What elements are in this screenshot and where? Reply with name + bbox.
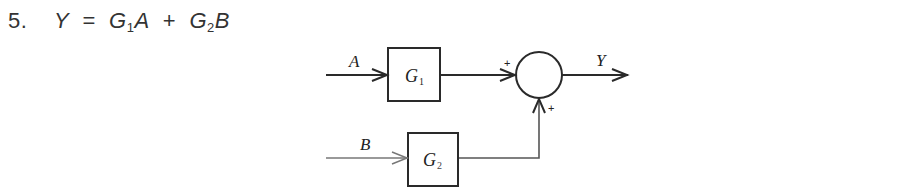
block-g1-sub: 1 — [419, 76, 424, 87]
label-y: Y — [596, 51, 607, 70]
sum-sign-top: + — [504, 57, 510, 69]
block-g2-sub: 2 — [437, 160, 442, 171]
block-diagram: A B Y G 1 G 2 + + — [0, 0, 912, 192]
block-g1-label: G — [405, 66, 418, 86]
label-b: B — [360, 135, 371, 154]
g2-to-sum-line — [458, 99, 539, 158]
block-g2-label: G — [423, 150, 436, 170]
summing-junction — [516, 52, 562, 98]
sum-sign-bottom: + — [548, 102, 554, 114]
label-a: A — [348, 52, 360, 71]
